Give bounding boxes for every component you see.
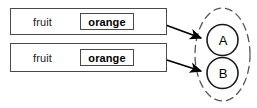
diagram-canvas: fruit orange fruit orange A B: [0, 0, 257, 108]
node-label-b: B: [208, 67, 238, 80]
attribute-value-box[interactable]: orange: [80, 49, 134, 66]
attribute-row[interactable]: fruit orange: [10, 8, 167, 35]
node-label-a: A: [208, 34, 238, 47]
attribute-value: orange: [88, 52, 125, 64]
attribute-row[interactable]: fruit orange: [10, 43, 167, 72]
attribute-value: orange: [88, 16, 125, 28]
attribute-label: fruit: [33, 52, 52, 64]
attribute-label: fruit: [33, 16, 52, 28]
attribute-value-box[interactable]: orange: [80, 13, 134, 30]
